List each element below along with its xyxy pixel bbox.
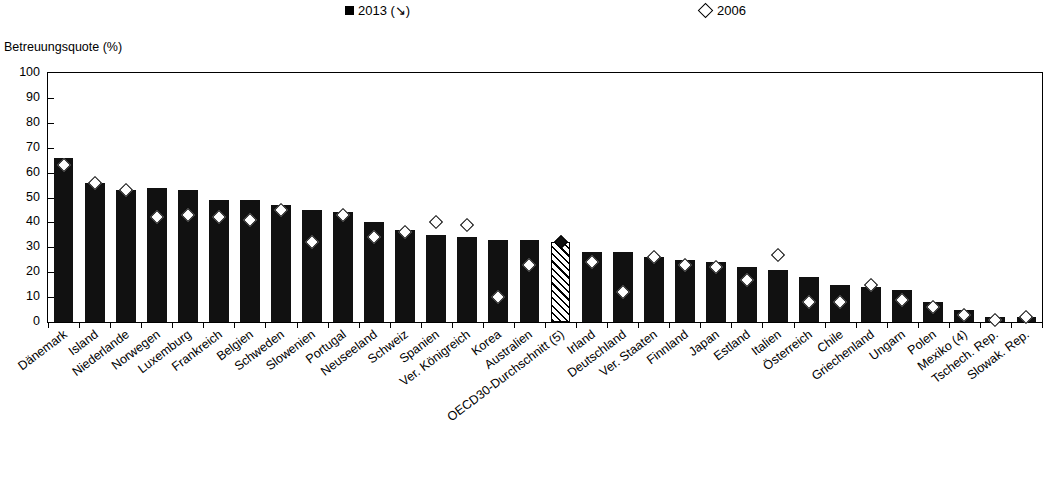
open-diamond-icon <box>698 3 714 19</box>
plot-area <box>47 72 1043 323</box>
bar-korea <box>488 240 508 322</box>
chart-legend: 2013 (↘) 2006 <box>0 0 1058 26</box>
y-tick-label-70: 70 <box>26 141 40 153</box>
marker-2006-italien <box>771 248 785 262</box>
bar-ver-staaten <box>644 257 664 322</box>
bar-niederlande <box>116 190 136 322</box>
y-tick-80 <box>48 123 54 124</box>
y-axis-title: Betreuungsquote (%) <box>4 40 122 54</box>
bar-schweiz <box>395 230 415 322</box>
y-tick-label-90: 90 <box>26 91 40 103</box>
y-tick-70 <box>48 148 54 149</box>
bar-australien <box>520 240 540 322</box>
y-tick-label-20: 20 <box>26 265 40 277</box>
x-axis-category-labels: DänemarkIslandNiederlandeNorwegenLuxembu… <box>0 326 1058 476</box>
filled-square-icon <box>345 6 354 15</box>
bar-griechenland <box>861 287 881 322</box>
y-tick-20 <box>48 272 54 273</box>
marker-2006-spanien <box>429 215 443 229</box>
y-tick-label-100: 100 <box>19 66 40 78</box>
y-tick-label-50: 50 <box>26 191 40 203</box>
plot-inner <box>48 73 1042 322</box>
legend-item-2006: 2006 <box>700 4 746 17</box>
y-axis-labels: 1009080706050403020100 <box>0 72 44 323</box>
y-tick-90 <box>48 98 54 99</box>
y-tick-50 <box>48 198 54 199</box>
bar-ver-k-nigreich <box>457 237 477 322</box>
bar-portugal <box>333 212 353 322</box>
y-tick-label-40: 40 <box>26 215 40 227</box>
y-tick-60 <box>48 173 54 174</box>
bar-slowenien <box>302 210 322 322</box>
legend-item-2013: 2013 (↘) <box>345 4 410 17</box>
bar-d-nemark <box>54 158 74 322</box>
y-tick-40 <box>48 222 54 223</box>
y-tick-10 <box>48 297 54 298</box>
marker-2006-ver-k-nigreich <box>460 218 474 232</box>
legend-label-2013: 2013 (↘) <box>358 4 410 17</box>
y-tick-label-30: 30 <box>26 240 40 252</box>
bar-island <box>85 183 105 322</box>
bar-schweden <box>271 205 291 322</box>
y-tick-label-80: 80 <box>26 116 40 128</box>
y-tick-label-10: 10 <box>26 290 40 302</box>
y-tick-30 <box>48 247 54 248</box>
bar-spanien <box>426 235 446 322</box>
legend-label-2006: 2006 <box>717 4 746 17</box>
y-tick-label-60: 60 <box>26 166 40 178</box>
bar-norwegen <box>147 188 167 322</box>
bar-oecd30-durchschnitt-5 <box>551 242 571 322</box>
bar-italien <box>768 270 788 322</box>
